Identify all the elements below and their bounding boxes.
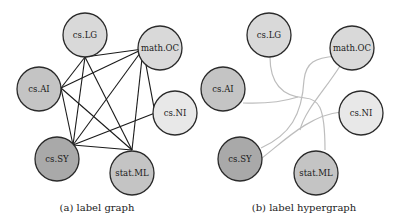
node-label: cs.NI: [350, 108, 373, 118]
caption-a: (a) label graph: [60, 202, 135, 213]
caption-b: (b) label hypergraph: [252, 202, 357, 213]
node-label: cs.SY: [228, 154, 252, 164]
panel-a-nodes: cs.LG math.OC cs.AI cs.NI cs.SY stat.ML: [17, 13, 197, 195]
node-label: cs.NI: [164, 108, 187, 118]
node-stat-ml: stat.ML: [110, 151, 154, 195]
node-label: stat.ML: [115, 168, 149, 178]
node-cs-lg: cs.LG: [63, 13, 107, 57]
node-cs-lg: cs.LG: [247, 13, 291, 57]
edge-cslg-statml: [85, 57, 132, 150]
figure: cs.LG math.OC cs.AI cs.NI cs.SY stat.ML …: [0, 0, 401, 223]
node-label: math.OC: [141, 43, 179, 53]
node-math-oc: math.OC: [330, 26, 374, 70]
hyperedge-csai-branch: [243, 97, 298, 103]
node-label: math.OC: [333, 43, 371, 53]
node-label: cs.AI: [28, 84, 49, 94]
node-math-oc: math.OC: [138, 26, 182, 70]
hyperedge-cslg-statml: [270, 57, 325, 150]
node-label: cs.SY: [45, 154, 69, 164]
edge-cssy-statml: [73, 145, 132, 150]
node-cs-sy: cs.SY: [35, 137, 79, 181]
node-cs-ni: cs.NI: [153, 91, 197, 135]
node-label: stat.ML: [299, 168, 333, 178]
panel-a-edges: [61, 49, 155, 150]
panel-b-hyperedges: [243, 56, 341, 158]
hyperedge-csni-cssy: [262, 112, 341, 158]
node-label: cs.LG: [257, 30, 281, 40]
node-cs-ni: cs.NI: [339, 91, 383, 135]
node-label: cs.LG: [73, 30, 97, 40]
panel-b-nodes: cs.LG math.OC cs.AI cs.NI cs.SY stat.ML: [201, 13, 383, 195]
node-label: cs.AI: [212, 84, 233, 94]
node-stat-ml: stat.ML: [294, 151, 338, 195]
node-cs-sy: cs.SY: [218, 137, 262, 181]
edge-mathoc-statml: [132, 49, 143, 150]
node-cs-ai: cs.AI: [201, 67, 245, 111]
edge-mathoc-cssy: [73, 49, 143, 145]
node-cs-ai: cs.AI: [17, 67, 61, 111]
